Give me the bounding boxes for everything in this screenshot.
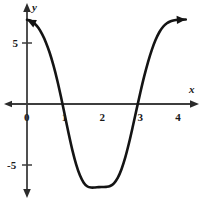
y-tick-label-neg5: -5 (7, 160, 16, 171)
x-axis-arrow-left (4, 101, 12, 107)
coordinate-plane (0, 0, 202, 201)
x-axis-label: x (189, 84, 195, 95)
y-axis-arrow-top (23, 3, 31, 12)
x-axis-group (4, 100, 199, 108)
y-tick-label-5: 5 (13, 38, 19, 49)
x-tick-label-3: 3 (137, 112, 143, 123)
graph-figure: 012345-5 x y (0, 0, 202, 201)
x-tick-label-2: 2 (100, 112, 106, 123)
x-axis-arrow-right (190, 100, 199, 108)
x-tick-label-4: 4 (175, 112, 181, 123)
x-tick-label-0: 0 (24, 112, 30, 123)
y-axis-arrow-bottom (23, 189, 31, 198)
y-axis-group (23, 3, 31, 198)
x-tick-label-1: 1 (62, 112, 68, 123)
curve-arrow-right (177, 16, 186, 24)
y-axis-label: y (32, 2, 37, 13)
